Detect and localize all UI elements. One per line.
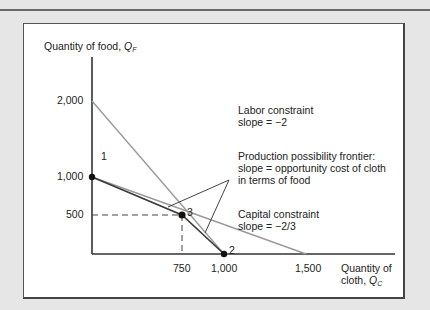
point-1-label: 1 — [101, 150, 107, 162]
y-tick-1000: 1,000 — [57, 170, 83, 182]
labor-annotation-line1: Labor constraint — [238, 104, 313, 116]
capital-constraint-annotation: Capital constraint slope = −2/3 — [238, 208, 319, 232]
y-axis-label: Quantity of food, QF — [44, 40, 136, 56]
point-2-marker — [221, 251, 227, 257]
y-axis-label-text: Quantity of food, — [44, 40, 124, 52]
ppf-pointer-line-a — [168, 180, 229, 207]
point-3-label: 3 — [187, 206, 193, 218]
x-axis-label-line1: Quantity of — [341, 262, 392, 274]
point-3-marker — [178, 211, 185, 218]
x-tick-1000: 1,000 — [211, 262, 237, 274]
point-1-marker — [89, 174, 95, 180]
x-axis-label-var: Q — [369, 274, 377, 286]
x-axis-label-line2: cloth, QC — [341, 274, 392, 290]
x-axis-label-sub: C — [377, 280, 382, 287]
ppf-annotation: Production possibility frontier: slope =… — [238, 150, 386, 186]
x-axis-label: Quantity of cloth, QC — [341, 262, 392, 290]
ppf-annotation-line1: Production possibility frontier: — [238, 150, 386, 162]
x-tick-750: 750 — [173, 262, 191, 274]
ppf-annotation-line3: in terms of food — [238, 174, 386, 186]
x-tick-1500: 1,500 — [295, 262, 321, 274]
y-axis-label-var: Q — [124, 40, 132, 52]
capital-annotation-line2: slope = −2/3 — [238, 220, 319, 232]
y-tick-2000: 2,000 — [57, 94, 83, 106]
capital-annotation-line1: Capital constraint — [238, 208, 319, 220]
labor-annotation-line2: slope = −2 — [238, 116, 313, 128]
y-axis-label-sub: F — [132, 46, 136, 53]
y-tick-500: 500 — [66, 208, 84, 220]
x-axis-label-text2: cloth, — [341, 274, 369, 286]
labor-constraint-annotation: Labor constraint slope = −2 — [238, 104, 313, 128]
labor-constraint-line — [92, 101, 224, 254]
ppf-annotation-line2: slope = opportunity cost of cloth — [238, 162, 386, 174]
point-2-label: 2 — [229, 244, 235, 256]
